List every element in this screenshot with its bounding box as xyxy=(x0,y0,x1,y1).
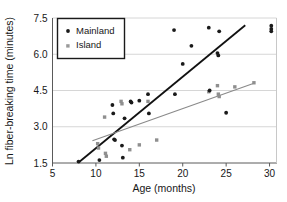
x-tick-label: 30 xyxy=(264,168,276,179)
y-axis-title: Ln fiber-breaking time (minutes) xyxy=(3,17,15,165)
legend-label-mainland: Mainland xyxy=(76,25,115,36)
data-point-island xyxy=(155,138,158,141)
data-point-mainland xyxy=(208,89,212,93)
data-point-island xyxy=(216,84,219,87)
data-point-mainland xyxy=(111,103,115,107)
data-point-mainland xyxy=(269,29,273,33)
data-point-island xyxy=(96,142,99,145)
data-point-mainland xyxy=(123,116,127,120)
chart-figure: 51015202530 1.53.04.56.07.5 Age (months)… xyxy=(0,0,287,202)
x-tick-label: 10 xyxy=(90,168,102,179)
y-tick-label: 3.0 xyxy=(34,121,48,132)
data-point-island xyxy=(146,100,149,103)
data-point-mainland xyxy=(97,158,101,162)
data-point-island xyxy=(120,102,123,105)
x-tick-label: 15 xyxy=(134,168,146,179)
data-point-mainland xyxy=(190,44,194,48)
y-tick-label: 6.0 xyxy=(34,49,48,60)
legend-label-island: Island xyxy=(76,39,101,50)
legend-marker-mainland-icon xyxy=(66,29,70,33)
chart-legend: Mainland Island xyxy=(58,19,125,59)
scatter-plot: 51015202530 1.53.04.56.07.5 Age (months)… xyxy=(0,0,287,202)
data-point-mainland xyxy=(77,160,81,164)
data-point-island xyxy=(105,155,108,158)
data-point-island xyxy=(217,95,220,98)
data-point-island xyxy=(128,148,131,151)
data-point-mainland xyxy=(207,26,211,30)
data-point-mainland xyxy=(216,54,220,58)
data-point-island xyxy=(104,152,107,155)
data-point-mainland xyxy=(111,112,115,116)
x-tick-label: 5 xyxy=(50,168,56,179)
data-point-mainland xyxy=(181,62,185,66)
data-point-mainland xyxy=(137,99,141,103)
x-tick-label: 25 xyxy=(221,168,233,179)
data-point-mainland xyxy=(224,111,228,115)
y-tick-label: 4.5 xyxy=(34,85,48,96)
data-point-mainland xyxy=(147,112,151,116)
legend-marker-island-icon xyxy=(66,44,69,47)
data-point-mainland xyxy=(121,156,125,160)
x-axis-title: Age (months) xyxy=(132,182,195,194)
y-tick-label: 1.5 xyxy=(34,158,48,169)
data-point-mainland xyxy=(172,28,176,32)
data-point-mainland xyxy=(113,138,117,142)
data-point-mainland xyxy=(217,29,221,33)
data-point-mainland xyxy=(146,92,150,96)
data-point-mainland xyxy=(130,101,134,105)
data-point-island xyxy=(97,146,100,149)
data-point-island xyxy=(233,85,236,88)
x-tick-label: 20 xyxy=(177,168,189,179)
data-point-island xyxy=(252,81,255,84)
data-point-mainland xyxy=(120,144,124,148)
data-point-mainland xyxy=(173,92,177,96)
data-point-island xyxy=(138,143,141,146)
y-tick-label: 7.5 xyxy=(34,13,48,24)
data-point-island xyxy=(103,115,106,118)
